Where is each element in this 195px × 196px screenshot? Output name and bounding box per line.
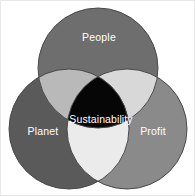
label-people: People bbox=[82, 31, 116, 43]
label-profit: Profit bbox=[140, 125, 166, 137]
venn-diagram-canvas: People Planet Profit Sustainability bbox=[1, 1, 195, 196]
venn-diagram-figure: People Planet Profit Sustainability bbox=[0, 0, 195, 196]
label-planet: Planet bbox=[28, 125, 59, 137]
label-sustainability: Sustainability bbox=[69, 113, 133, 125]
